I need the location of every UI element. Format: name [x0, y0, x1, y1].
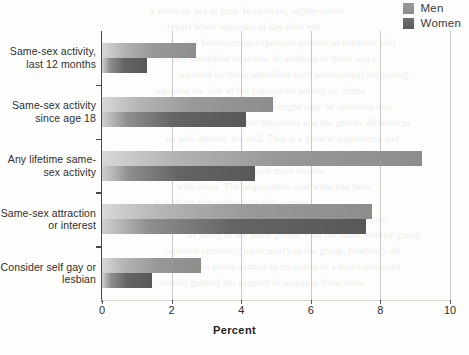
- bar-chart-figure: Men Women Percent 0246810Same-sex activi…: [0, 0, 469, 355]
- bar-women-0: [102, 58, 147, 73]
- legend-label-women: Women: [421, 17, 461, 29]
- x-tick-label: 6: [308, 304, 314, 316]
- bar-men-3: [102, 204, 372, 219]
- y-axis-tick: [96, 192, 102, 193]
- x-tick-label: 2: [169, 304, 175, 316]
- y-axis-tick: [96, 139, 102, 140]
- x-axis-line: [101, 300, 451, 301]
- category-label-line: Same-sex attraction: [0, 207, 96, 220]
- legend-item-men: Men: [403, 2, 461, 14]
- bar-men-2: [102, 151, 422, 166]
- bar-women-3: [102, 219, 366, 234]
- bar-men-4: [102, 258, 201, 273]
- plot-area: [102, 31, 450, 300]
- category-label-line: Same-sex activity,: [0, 45, 96, 58]
- category-label-line: Consider self gay or: [0, 261, 96, 274]
- chart-legend: Men Women: [403, 2, 461, 29]
- category-label-0: Same-sex activity,last 12 months: [0, 45, 96, 70]
- bar-women-4: [102, 273, 152, 288]
- legend-swatch-women: [403, 18, 414, 29]
- bar-men-0: [102, 43, 196, 58]
- x-tick-label: 10: [444, 304, 456, 316]
- category-label-1: Same-sex activitysince age 18: [0, 99, 96, 124]
- category-label-line: Any lifetime same-: [0, 153, 96, 166]
- x-axis-title: Percent: [0, 324, 469, 336]
- category-label-line: last 12 months: [0, 58, 96, 71]
- category-label-4: Consider self gay orlesbian: [0, 261, 96, 286]
- category-label-line: since age 18: [0, 112, 96, 125]
- bar-women-2: [102, 166, 255, 181]
- legend-swatch-men: [403, 3, 414, 14]
- y-axis-tick: [96, 85, 102, 86]
- x-gridline: [450, 31, 451, 300]
- legend-label-men: Men: [421, 2, 444, 14]
- bar-women-1: [102, 112, 246, 127]
- y-axis-tick: [96, 246, 102, 247]
- x-tick-label: 8: [377, 304, 383, 316]
- bar-men-1: [102, 97, 273, 112]
- category-label-3: Same-sex attractionor interest: [0, 207, 96, 232]
- x-tick-label: 4: [238, 304, 244, 316]
- category-label-line: lesbian: [0, 273, 96, 286]
- x-gridline: [311, 31, 312, 300]
- category-label-line: sex activity: [0, 166, 96, 179]
- legend-item-women: Women: [403, 17, 461, 29]
- x-tick-label: 0: [99, 304, 105, 316]
- category-label-line: Same-sex activity: [0, 99, 96, 112]
- category-label-line: or interest: [0, 219, 96, 232]
- x-gridline: [380, 31, 381, 300]
- category-label-2: Any lifetime same-sex activity: [0, 153, 96, 178]
